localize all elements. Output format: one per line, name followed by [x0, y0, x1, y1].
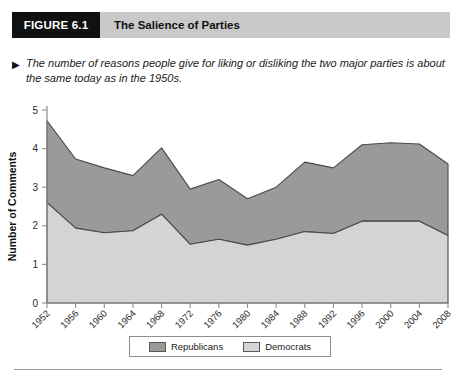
triangle-bullet-icon: ▶: [12, 56, 26, 72]
legend-swatch-republicans: [149, 342, 166, 352]
svg-text:2: 2: [32, 220, 38, 231]
svg-text:1992: 1992: [316, 308, 339, 331]
chart-legend: Republicans Democrats: [129, 336, 331, 357]
svg-text:1968: 1968: [144, 308, 167, 331]
svg-text:2008: 2008: [430, 308, 453, 331]
svg-text:2000: 2000: [373, 308, 396, 331]
svg-text:1956: 1956: [58, 308, 81, 331]
legend-swatch-democrats: [243, 342, 260, 352]
svg-text:1972: 1972: [172, 308, 195, 331]
stacked-area-chart: 012345 195219561960196419681972197619801…: [0, 98, 455, 348]
svg-text:0: 0: [32, 298, 38, 309]
x-tick-labels: 1952195619601964196819721976198019841988…: [29, 308, 453, 331]
svg-text:1952: 1952: [29, 308, 52, 331]
legend-label-republicans: Republicans: [171, 341, 223, 352]
svg-text:1988: 1988: [287, 308, 310, 331]
svg-text:1996: 1996: [344, 308, 367, 331]
chart-area: 012345 195219561960196419681972197619801…: [0, 98, 455, 348]
figure-title: The Salience of Parties: [100, 12, 450, 38]
svg-text:Number of Comments: Number of Comments: [6, 152, 18, 262]
y-tick-labels: 012345: [32, 105, 38, 309]
y-axis-title: Number of Comments: [6, 152, 18, 262]
figure-caption: ▶ The number of reasons people give for …: [12, 56, 448, 86]
figure-header-bar: FIGURE 6.1 The Salience of Parties: [12, 12, 450, 38]
svg-text:1960: 1960: [86, 308, 109, 331]
svg-text:1: 1: [32, 259, 38, 270]
svg-text:1964: 1964: [115, 308, 138, 331]
legend-entry-republicans: Republicans: [149, 341, 223, 352]
svg-text:5: 5: [32, 105, 38, 116]
svg-text:1984: 1984: [258, 308, 281, 331]
legend-label-democrats: Democrats: [265, 341, 311, 352]
svg-text:1976: 1976: [201, 308, 224, 331]
series-layer: [47, 121, 448, 303]
svg-text:3: 3: [32, 182, 38, 193]
figure-caption-text: The number of reasons people give for li…: [26, 56, 448, 86]
svg-text:4: 4: [32, 143, 38, 154]
svg-text:2004: 2004: [402, 308, 425, 331]
figure-number-label: FIGURE 6.1: [12, 12, 100, 38]
legend-entry-democrats: Democrats: [243, 341, 311, 352]
bottom-divider: [14, 369, 442, 370]
svg-text:1980: 1980: [230, 308, 253, 331]
